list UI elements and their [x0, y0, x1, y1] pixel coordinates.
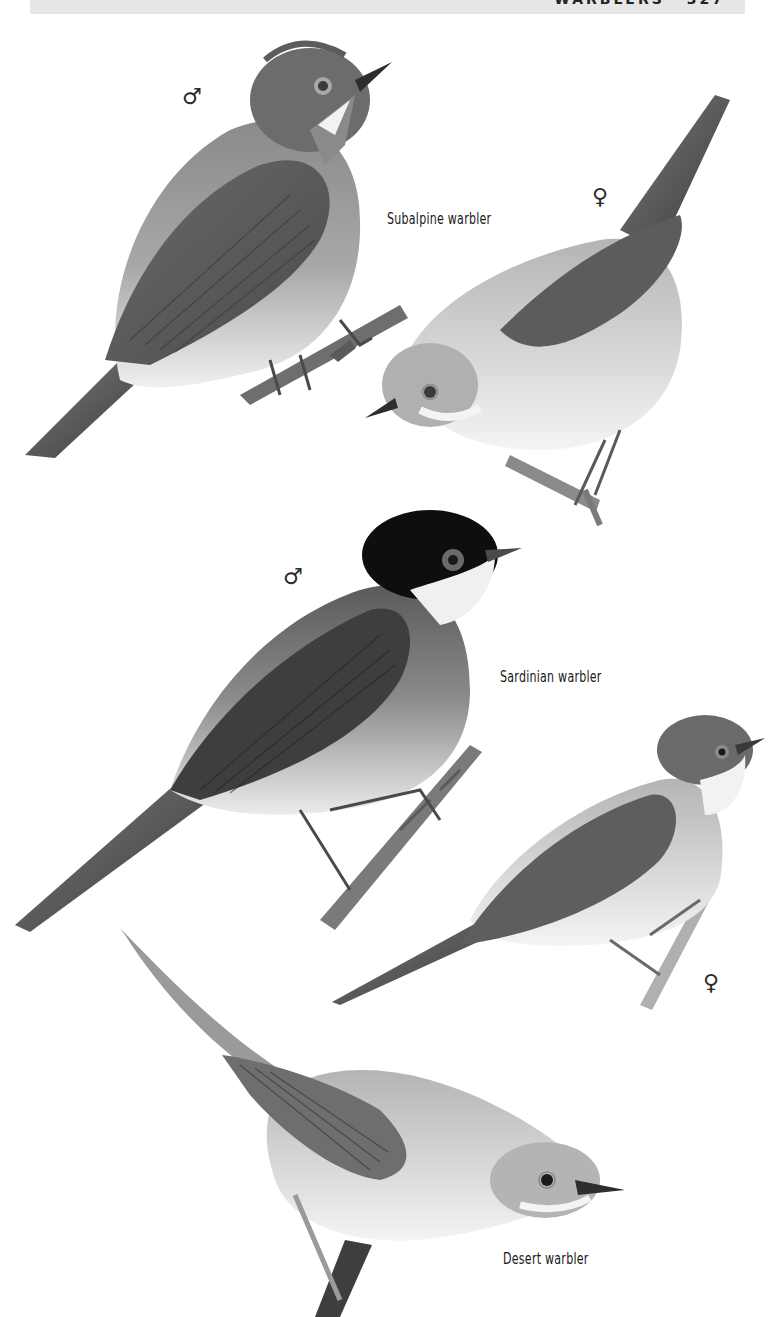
- species-label-subalpine-warbler: Subalpine warbler: [387, 210, 491, 228]
- species-label-sardinian-warbler: Sardinian warbler: [500, 668, 602, 686]
- species-label-desert-warbler: Desert warbler: [503, 1250, 589, 1268]
- male-symbol-subalpine: ♂: [182, 86, 202, 108]
- male-symbol-sardinian: ♂: [283, 566, 303, 588]
- subalpine-warbler-male-illustration: [25, 44, 408, 458]
- subalpine-warbler-female-illustration: [365, 95, 730, 525]
- female-symbol-sardinian: ♀: [703, 972, 719, 994]
- female-symbol-subalpine: ♀: [592, 186, 608, 208]
- sardinian-warbler-male-illustration: [15, 510, 522, 932]
- illustration-plate: [0, 0, 777, 1317]
